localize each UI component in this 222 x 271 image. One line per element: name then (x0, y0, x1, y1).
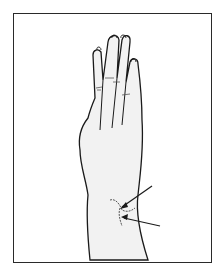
hand-outline (79, 36, 148, 260)
hand-illustration (0, 0, 222, 271)
